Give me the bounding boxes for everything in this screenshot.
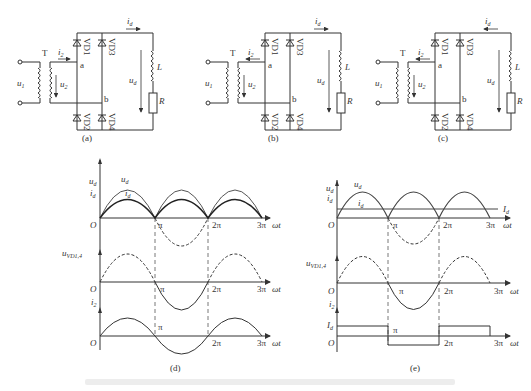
svg-text:ωt: ωt bbox=[503, 220, 512, 230]
svg-text:i2: i2 bbox=[329, 299, 335, 310]
terminal-top bbox=[18, 60, 22, 64]
svg-text:id: id bbox=[315, 16, 322, 27]
svg-text:i2: i2 bbox=[58, 47, 64, 58]
diagram-canvas: u1 T i2 u2 a b VD1 VD3 VD2 VD4 id ud L R… bbox=[0, 0, 531, 391]
svg-text:ud: ud bbox=[129, 75, 138, 86]
circuit-b: u1 T i2 u2 a b VD1 VD3 VD2 VD4 id ud L R… bbox=[205, 16, 353, 143]
svg-text:O: O bbox=[90, 338, 97, 348]
svg-text:R: R bbox=[516, 96, 523, 106]
svg-text:VD4: VD4 bbox=[295, 113, 305, 131]
svg-text:3π: 3π bbox=[257, 338, 267, 348]
svg-text:u1: u1 bbox=[17, 78, 25, 89]
svg-text:O: O bbox=[90, 220, 97, 230]
svg-text:ωt: ωt bbox=[510, 286, 519, 296]
caption-b: (b) bbox=[268, 133, 279, 143]
svg-text:ud: ud bbox=[317, 75, 326, 86]
svg-text:VD4: VD4 bbox=[107, 113, 117, 131]
caption-c: (c) bbox=[438, 133, 448, 143]
svg-text:2π: 2π bbox=[444, 338, 454, 348]
svg-text:b: b bbox=[462, 94, 467, 104]
resistor-R bbox=[149, 93, 157, 113]
svg-text:b: b bbox=[104, 94, 109, 104]
svg-text:2π: 2π bbox=[444, 286, 454, 296]
svg-text:u1: u1 bbox=[375, 78, 383, 89]
svg-text:a: a bbox=[80, 60, 84, 70]
svg-text:O: O bbox=[328, 338, 335, 348]
svg-text:T: T bbox=[42, 48, 48, 58]
svg-text:VD1: VD1 bbox=[440, 38, 450, 56]
svg-text:ωt: ωt bbox=[272, 284, 281, 294]
svg-text:O: O bbox=[90, 284, 97, 294]
svg-text:id: id bbox=[358, 198, 365, 209]
svg-text:VD2: VD2 bbox=[82, 113, 92, 131]
svg-text:Id: Id bbox=[326, 320, 334, 331]
svg-text:π: π bbox=[160, 284, 165, 294]
svg-text:id: id bbox=[127, 16, 134, 27]
svg-text:R: R bbox=[158, 96, 165, 106]
svg-text:3π: 3π bbox=[257, 284, 267, 294]
svg-text:u2: u2 bbox=[418, 79, 426, 90]
terminal-bottom bbox=[18, 101, 22, 105]
figure-caption-illegible bbox=[85, 379, 455, 385]
svg-text:u2: u2 bbox=[60, 79, 68, 90]
svg-text:Id: Id bbox=[502, 204, 510, 215]
svg-text:VD1: VD1 bbox=[82, 38, 92, 56]
svg-text:3π: 3π bbox=[494, 286, 504, 296]
svg-text:ωt: ωt bbox=[272, 220, 281, 230]
circuit-c: u1 T i2 u2 a b VD1 VD3 VD2 VD4 id ud L R… bbox=[375, 16, 523, 143]
svg-text:ud: ud bbox=[354, 179, 363, 190]
caption-e: (e) bbox=[410, 363, 420, 373]
svg-text:u1: u1 bbox=[205, 78, 213, 89]
svg-text:2π: 2π bbox=[212, 284, 222, 294]
svg-text:O: O bbox=[328, 220, 335, 230]
svg-text:ud: ud bbox=[487, 75, 496, 86]
svg-text:T: T bbox=[230, 48, 236, 58]
svg-text:3π: 3π bbox=[494, 338, 504, 348]
caption-a: (a) bbox=[82, 133, 92, 143]
svg-text:a: a bbox=[268, 60, 272, 70]
svg-text:π: π bbox=[399, 286, 404, 296]
svg-text:VD3: VD3 bbox=[295, 38, 305, 56]
svg-text:3π: 3π bbox=[486, 220, 496, 230]
waveforms-e: ud id ud id Id O π 2π 3π ωt uVD1,4 O π 2… bbox=[306, 179, 519, 373]
svg-text:ud: ud bbox=[121, 174, 130, 185]
svg-text:id: id bbox=[327, 193, 334, 204]
svg-text:id: id bbox=[90, 188, 97, 199]
svg-text:u2: u2 bbox=[248, 79, 256, 90]
svg-text:π: π bbox=[393, 325, 398, 335]
svg-text:L: L bbox=[156, 62, 162, 72]
svg-text:L: L bbox=[344, 62, 350, 72]
svg-text:VD3: VD3 bbox=[465, 38, 475, 56]
svg-text:ωt: ωt bbox=[272, 338, 281, 348]
svg-text:R: R bbox=[346, 96, 353, 106]
svg-text:i2: i2 bbox=[91, 297, 97, 308]
svg-text:π: π bbox=[158, 322, 163, 332]
svg-text:uVD1,4: uVD1,4 bbox=[62, 248, 82, 259]
svg-text:O: O bbox=[328, 286, 335, 296]
svg-text:VD3: VD3 bbox=[107, 38, 117, 56]
svg-text:id: id bbox=[485, 16, 492, 27]
svg-text:i2: i2 bbox=[418, 47, 424, 58]
svg-text:π: π bbox=[393, 220, 398, 230]
svg-text:ud: ud bbox=[89, 176, 98, 187]
svg-text:VD2: VD2 bbox=[440, 113, 450, 131]
svg-text:VD1: VD1 bbox=[270, 38, 280, 56]
svg-text:2π: 2π bbox=[212, 338, 222, 348]
svg-text:2π: 2π bbox=[212, 220, 222, 230]
svg-text:L: L bbox=[514, 62, 520, 72]
svg-text:a: a bbox=[438, 60, 442, 70]
svg-text:T: T bbox=[400, 48, 406, 58]
svg-text:VD4: VD4 bbox=[465, 113, 475, 131]
svg-text:π: π bbox=[158, 220, 163, 230]
svg-text:VD2: VD2 bbox=[270, 113, 280, 131]
svg-text:b: b bbox=[292, 94, 297, 104]
svg-text:uVD1,4: uVD1,4 bbox=[306, 258, 326, 269]
svg-text:ωt: ωt bbox=[510, 338, 519, 348]
svg-text:i2: i2 bbox=[248, 47, 254, 58]
circuit-a: u1 T i2 u2 a b VD1 VD3 VD2 VD4 id ud L R… bbox=[17, 16, 165, 143]
waveforms-d: ud id ud id O π 2π 3π ωt uVD1,4 O π 2π 3… bbox=[62, 158, 281, 373]
caption-d: (d) bbox=[170, 363, 181, 373]
svg-text:3π: 3π bbox=[257, 220, 267, 230]
svg-text:2π: 2π bbox=[443, 220, 453, 230]
